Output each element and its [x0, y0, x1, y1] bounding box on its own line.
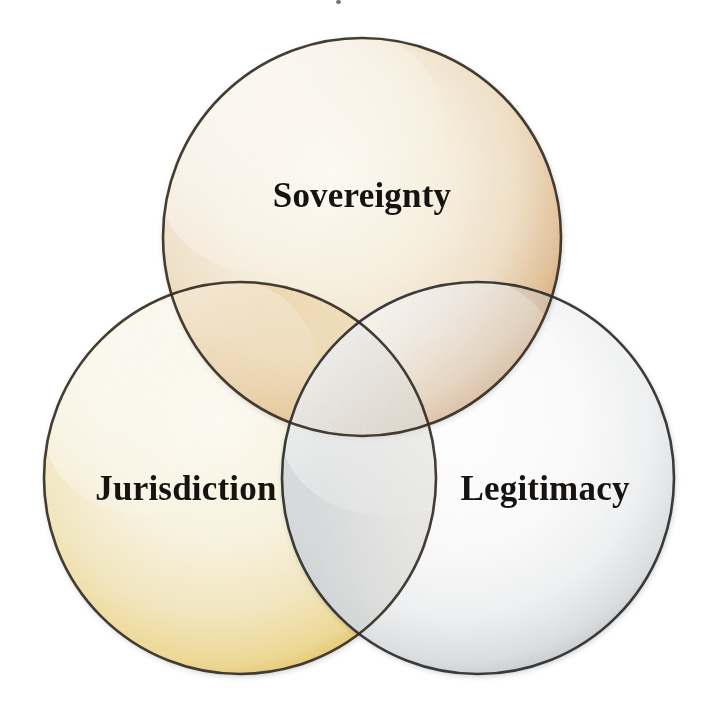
paper-grain-overlay — [44, 38, 674, 674]
venn-diagram: Sovereignty Jurisdiction Legitimacy — [0, 0, 715, 714]
scan-artifact-speck — [336, 0, 341, 4]
venn-diagram-canvas — [0, 0, 715, 714]
